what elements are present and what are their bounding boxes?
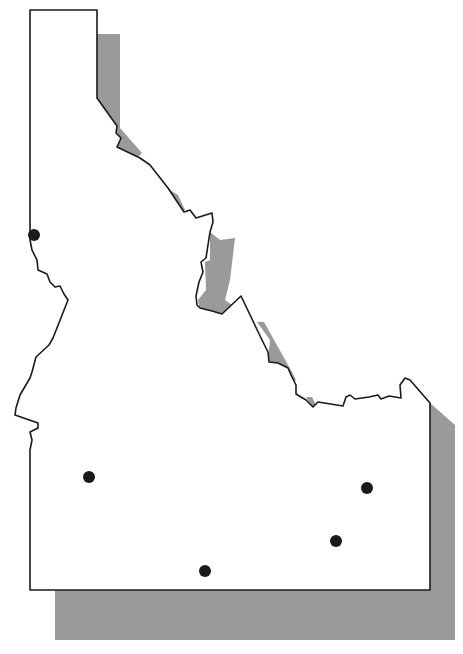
city-marker [199,565,211,577]
shadow-south [55,590,455,640]
city-marker [83,471,95,483]
city-marker [330,535,342,547]
idaho-map [0,0,463,654]
city-marker [28,229,40,241]
city-marker [361,482,373,494]
